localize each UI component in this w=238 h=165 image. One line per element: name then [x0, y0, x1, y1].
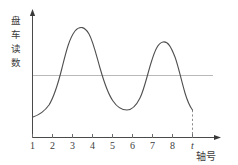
- x-tick-label-1: 1: [26, 141, 40, 151]
- y-axis-arrow-icon: [30, 9, 35, 16]
- x-tick-label-2: 2: [46, 141, 60, 151]
- x-tick-label-3: 3: [66, 141, 80, 151]
- x-tick-label-7: 7: [146, 141, 160, 151]
- x-axis-ticks: [33, 134, 193, 138]
- y-axis-title: 盘 车 读 数: [8, 14, 23, 70]
- x-tick-label-6: 6: [126, 141, 140, 151]
- x-axis-arrow-icon: [214, 135, 221, 140]
- data-curve: [33, 27, 193, 117]
- x-tick-label-5: 5: [106, 141, 120, 151]
- x-tick-label-4: 4: [86, 141, 100, 151]
- chart-figure: 盘 车 读 数 1 2 3 4 5 6 7 8 t 轴号: [0, 0, 238, 165]
- x-axis-title: 轴号: [196, 148, 216, 163]
- x-tick-label-8: 8: [166, 141, 180, 151]
